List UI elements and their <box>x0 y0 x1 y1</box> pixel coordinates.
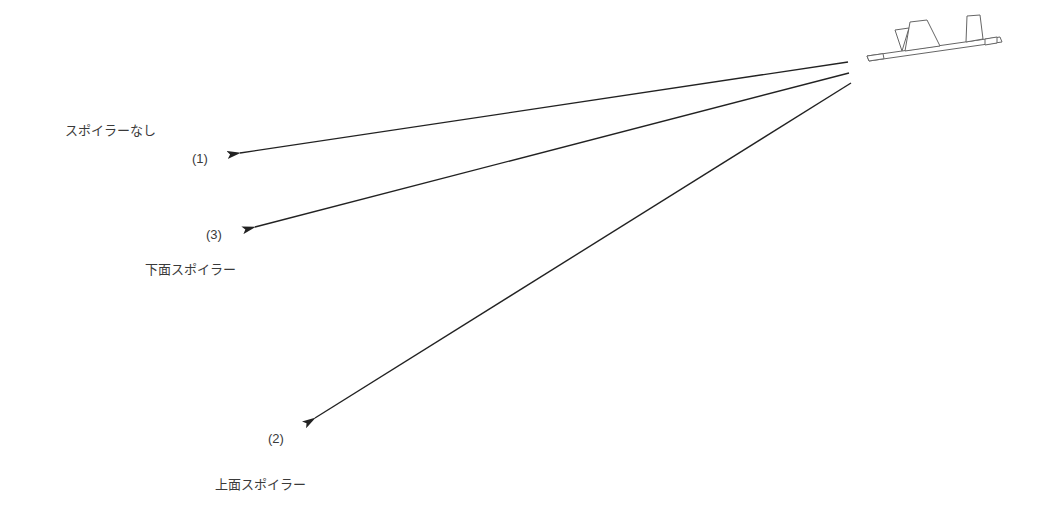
marker-3: (3) <box>206 228 222 241</box>
label-no-spoiler: スポイラーなし <box>65 124 156 137</box>
label-upper-spoiler: 上面スポイラー <box>215 478 306 491</box>
trajectory-arrow-2 <box>315 83 851 418</box>
marker-2: (2) <box>268 432 284 445</box>
label-lower-spoiler: 下面スポイラー <box>145 263 236 276</box>
wing-with-spoilers-icon <box>867 15 1002 61</box>
marker-1: (1) <box>192 152 208 165</box>
trajectory-arrow-3 <box>255 73 849 227</box>
trajectory-arrow-1 <box>240 62 848 153</box>
